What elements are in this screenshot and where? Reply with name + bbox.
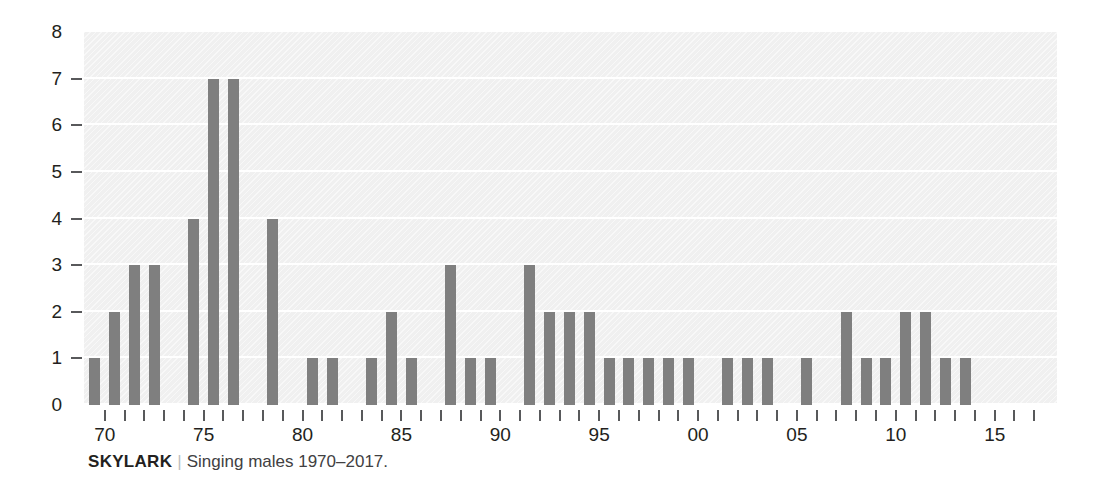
x-tick-mark	[994, 410, 996, 421]
x-tick-mark	[302, 410, 304, 421]
x-tick-mark	[480, 410, 482, 421]
y-tick-mark	[71, 311, 82, 313]
x-tick-mark	[855, 410, 857, 421]
x-tick-label: 75	[182, 423, 226, 447]
x-tick-mark	[420, 410, 422, 421]
x-tick-label: 00	[676, 423, 720, 447]
x-tick-mark	[282, 410, 284, 421]
bar	[406, 358, 417, 405]
x-tick-mark	[677, 410, 679, 421]
bar	[742, 358, 753, 405]
bar	[129, 265, 140, 405]
x-tick-mark	[361, 410, 363, 421]
bar	[485, 358, 496, 405]
bar	[663, 358, 674, 405]
bar	[940, 358, 951, 405]
x-tick-mark	[737, 410, 739, 421]
chart-figure: 012345678 70758085909500051015 SKYLARK|S…	[0, 0, 1109, 493]
x-tick-mark	[381, 410, 383, 421]
x-tick-mark	[400, 410, 402, 421]
bar	[861, 358, 872, 405]
bar	[327, 358, 338, 405]
bar	[524, 265, 535, 405]
x-tick-mark	[598, 410, 600, 421]
x-tick-label: 90	[478, 423, 522, 447]
x-tick-mark	[539, 410, 541, 421]
bar	[564, 312, 575, 405]
bar	[208, 79, 219, 405]
y-tick-mark	[71, 264, 82, 266]
bar	[366, 358, 377, 405]
x-tick-mark	[697, 410, 699, 421]
x-tick-mark	[262, 410, 264, 421]
bar	[109, 312, 120, 405]
x-tick-mark	[460, 410, 462, 421]
plot-area	[84, 32, 1057, 405]
caption-separator: |	[172, 452, 186, 471]
bar	[228, 79, 239, 405]
y-tick-mark	[71, 218, 82, 220]
bar	[584, 312, 595, 405]
x-tick-mark	[658, 410, 660, 421]
x-tick-label: 70	[83, 423, 127, 447]
bar	[445, 265, 456, 405]
y-tick-label: 2	[22, 300, 62, 324]
bar	[307, 358, 318, 405]
y-tick-label: 3	[22, 253, 62, 277]
x-tick-label: 05	[775, 423, 819, 447]
bar	[920, 312, 931, 405]
y-tick-label: 6	[22, 113, 62, 137]
x-tick-mark	[915, 410, 917, 421]
caption-description: Singing males 1970–2017.	[187, 452, 388, 471]
x-tick-mark	[183, 410, 185, 421]
bar	[623, 358, 634, 405]
bar	[188, 219, 199, 406]
x-tick-mark	[519, 410, 521, 421]
x-tick-label: 15	[973, 423, 1017, 447]
x-tick-mark	[1013, 410, 1015, 421]
x-tick-label: 10	[874, 423, 918, 447]
x-tick-mark	[638, 410, 640, 421]
x-tick-mark	[124, 410, 126, 421]
y-tick-mark	[71, 357, 82, 359]
chart-caption: SKYLARK|Singing males 1970–2017.	[88, 450, 388, 474]
x-tick-mark	[321, 410, 323, 421]
bar	[386, 312, 397, 405]
y-tick-label: 8	[22, 20, 62, 44]
x-tick-mark	[816, 410, 818, 421]
y-tick-label: 0	[22, 393, 62, 417]
bar	[880, 358, 891, 405]
bar	[544, 312, 555, 405]
y-tick-label: 1	[22, 346, 62, 370]
y-tick-mark	[71, 171, 82, 173]
x-tick-mark	[1033, 410, 1035, 421]
x-tick-mark	[756, 410, 758, 421]
x-tick-mark	[163, 410, 165, 421]
bar	[762, 358, 773, 405]
y-tick-label: 5	[22, 160, 62, 184]
x-tick-label: 85	[379, 423, 423, 447]
y-tick-label: 4	[22, 207, 62, 231]
bar-series	[84, 32, 1057, 405]
x-tick-mark	[835, 410, 837, 421]
x-tick-mark	[776, 410, 778, 421]
bar	[801, 358, 812, 405]
bar	[149, 265, 160, 405]
x-tick-mark	[559, 410, 561, 421]
y-tick-label: 7	[22, 67, 62, 91]
bar	[643, 358, 654, 405]
bar	[722, 358, 733, 405]
bar	[267, 219, 278, 406]
x-tick-mark	[341, 410, 343, 421]
bar	[900, 312, 911, 405]
x-tick-mark	[222, 410, 224, 421]
x-tick-mark	[203, 410, 205, 421]
x-tick-label: 95	[577, 423, 621, 447]
y-tick-mark	[71, 78, 82, 80]
x-tick-mark	[974, 410, 976, 421]
x-tick-mark	[143, 410, 145, 421]
x-tick-mark	[440, 410, 442, 421]
bar	[960, 358, 971, 405]
x-tick-mark	[954, 410, 956, 421]
y-axis: 012345678	[0, 32, 84, 405]
